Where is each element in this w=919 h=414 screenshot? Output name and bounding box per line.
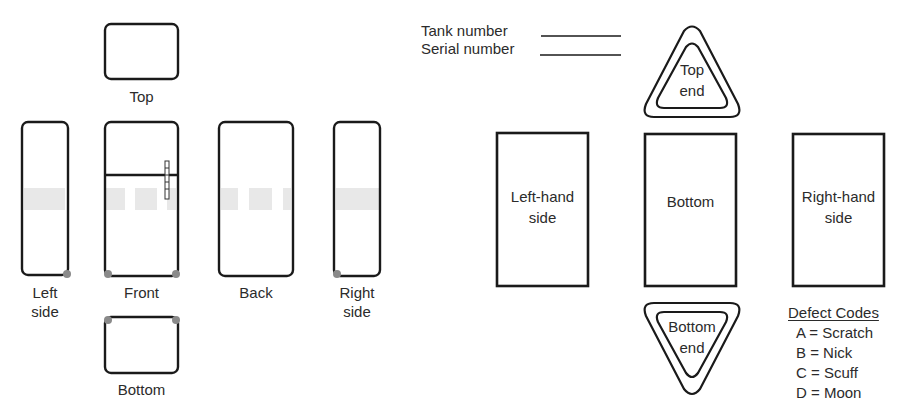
background-band	[24, 188, 379, 210]
bottom-view-box	[105, 317, 178, 373]
left-side-label-line1: Left	[10, 283, 80, 302]
left-side-view-label: Left side	[10, 283, 80, 321]
corner-marker-dot	[172, 316, 180, 324]
bottom-view-label: Bottom	[100, 380, 183, 399]
back-view-label: Back	[219, 283, 293, 302]
legend-item-b: B = Nick	[788, 343, 879, 363]
legend-title: Defect Codes	[788, 303, 879, 323]
corner-marker-dot	[172, 270, 180, 278]
right-hand-side-label-line1: Right-hand	[802, 186, 875, 207]
right-hand-side-label-line2: side	[825, 207, 853, 228]
serial-number-label: Serial number	[421, 40, 514, 58]
left-hand-side-label: Left-hand side	[497, 185, 588, 229]
left-side-label-line2: side	[10, 302, 80, 321]
left-hand-side-label-line1: Left-hand	[511, 186, 574, 207]
left-hand-side-label-line2: side	[529, 207, 557, 228]
corner-marker-dot	[104, 316, 112, 324]
bottom-end-label-line1: Bottom	[668, 316, 716, 337]
legend-item-d: D = Moon	[788, 383, 879, 403]
diagram-shapes	[0, 0, 919, 414]
tank-number-label: Tank number	[421, 22, 508, 40]
tank-bottom-label: Bottom	[645, 190, 736, 212]
defect-check-sheet-diagram: Top Left side Front Back Right side Bott…	[0, 0, 919, 414]
top-end-label-line1: Top	[680, 59, 704, 80]
top-view-label: Top	[105, 87, 178, 106]
defect-codes-legend: Defect Codes A = Scratch B = Nick C = Sc…	[788, 303, 879, 403]
top-end-label: Top end	[662, 58, 722, 102]
right-hand-side-label: Right-hand side	[790, 185, 887, 229]
legend-item-c: C = Scuff	[788, 363, 879, 383]
corner-marker-dot	[333, 270, 341, 278]
bottom-end-label-line2: end	[679, 337, 704, 358]
top-end-label-line2: end	[679, 80, 704, 101]
corner-marker-dot	[63, 270, 71, 278]
right-side-label-line1: Right	[322, 283, 392, 302]
legend-item-a: A = Scratch	[788, 323, 879, 343]
front-view-label: Front	[100, 283, 183, 302]
right-side-label-line2: side	[322, 302, 392, 321]
bottom-end-label: Bottom end	[660, 315, 724, 359]
door-handle-icon	[165, 161, 169, 199]
top-view-box	[105, 24, 178, 79]
corner-marker-dot	[104, 270, 112, 278]
right-side-view-label: Right side	[322, 283, 392, 321]
